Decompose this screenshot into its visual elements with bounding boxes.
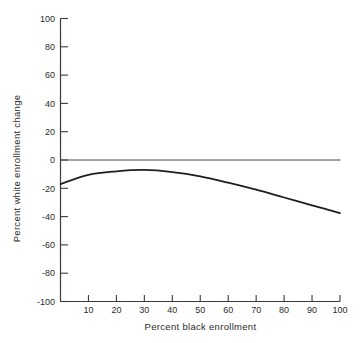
figure: 100806040200-20-40-60-80-100102030405060…	[0, 0, 361, 343]
x-tick-label: 50	[195, 305, 205, 315]
x-tick-label: 20	[111, 305, 121, 315]
x-tick-label: 100	[332, 305, 347, 315]
enrollment-chart: 100806040200-20-40-60-80-100102030405060…	[0, 0, 361, 343]
y-axis-title: Percent white enrollment change	[11, 29, 22, 309]
y-tick-label: -40	[42, 212, 55, 222]
y-tick-label: 20	[45, 127, 55, 137]
y-tick-label: 80	[45, 42, 55, 52]
x-tick-label: 10	[83, 305, 93, 315]
y-tick-label: -20	[42, 184, 55, 194]
y-tick-label: -80	[42, 268, 55, 278]
y-tick-label: -100	[37, 297, 55, 307]
y-tick-label: 0	[50, 155, 55, 165]
x-tick-label: 30	[139, 305, 149, 315]
x-tick-label: 90	[307, 305, 317, 315]
y-tick-label: 60	[45, 70, 55, 80]
x-tick-label: 70	[251, 305, 261, 315]
x-tick-label: 60	[223, 305, 233, 315]
x-tick-label: 40	[167, 305, 177, 315]
y-tick-label: 40	[45, 99, 55, 109]
y-tick-label: -60	[42, 240, 55, 250]
white-enrollment-change-curve	[61, 170, 341, 213]
x-tick-label: 80	[279, 305, 289, 315]
x-axis-title: Percent black enrollment	[61, 321, 340, 332]
y-tick-label: 100	[40, 14, 55, 24]
